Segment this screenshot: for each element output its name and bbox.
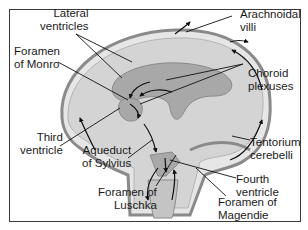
label-fourth-ventricle: Fourth ventricle (236, 173, 279, 198)
label-foramen-of-monro: Foramen of Monro (14, 45, 60, 70)
label-foramen-of-luschka: Foramen of Luschka (98, 186, 157, 211)
label-foramen-of-magendie: Foramen of Magendie (218, 196, 277, 221)
label-third-ventricle: Third ventricle (20, 131, 63, 156)
label-tentorium-cerebelli: Tentorium cerebelli (250, 136, 301, 161)
label-arachnoidal-villi: Arachnoidal villi (240, 8, 301, 33)
label-lateral-ventricles: Lateral ventricles (40, 7, 89, 32)
label-aqueduct-of-sylvius: Aqueduct of Sylvius (82, 144, 131, 169)
label-choroid-plexuses: Choroid plexuses (248, 67, 293, 92)
leader-arachnoid (186, 16, 232, 32)
